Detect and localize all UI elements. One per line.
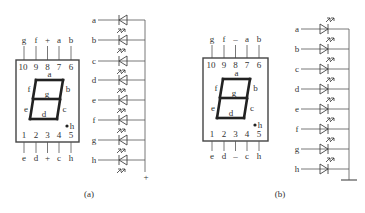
pin-label: g xyxy=(210,34,215,44)
led-row-h: h xyxy=(92,155,145,173)
panel-b-common-cathode: g f – a b 10 9 8 7 6 xyxy=(203,18,357,199)
pin-number: 9 xyxy=(222,60,227,70)
led-label: f xyxy=(93,115,96,125)
pin-label: d xyxy=(34,153,39,163)
led-label: e xyxy=(295,104,299,114)
light-emission-arrows-icon xyxy=(326,78,334,82)
pin-number: 6 xyxy=(69,62,74,72)
pin-number: 1 xyxy=(210,129,215,139)
segment-label-g: g xyxy=(45,89,50,99)
led-row-a: a xyxy=(92,15,145,33)
pin-number: 7 xyxy=(57,62,62,72)
segment-label-c: c xyxy=(250,103,254,113)
led-row-d: d xyxy=(295,78,349,94)
segment-b xyxy=(247,79,250,97)
pin-label: – xyxy=(232,34,238,44)
panel-a-caption: (a) xyxy=(84,189,94,199)
led-row-f: f xyxy=(296,118,350,134)
segment-label-g: g xyxy=(232,88,237,98)
panel-a-led-circuit: + a b c d xyxy=(92,15,149,182)
led-row-f: f xyxy=(93,115,146,133)
segment-e xyxy=(30,100,33,119)
light-emission-arrows-icon xyxy=(117,149,125,153)
panel-a-bottom-pin-numbers: 1 2 3 4 5 xyxy=(22,130,74,140)
panel-b-top-pin-labels: g f – a b xyxy=(210,34,262,44)
pin-label: e xyxy=(210,151,214,161)
led-label: h xyxy=(92,155,97,165)
led-row-e: e xyxy=(295,98,349,114)
light-emission-arrows-icon xyxy=(117,129,125,133)
pin-number: 10 xyxy=(207,60,217,70)
segment-label-e: e xyxy=(211,103,215,113)
light-emission-arrows-icon xyxy=(326,58,334,62)
pin-label: h xyxy=(257,151,262,161)
seven-segment-diagram: g f + a b 10 9 8 7 6 xyxy=(0,0,365,213)
light-emission-arrows-icon xyxy=(326,18,334,22)
pin-number: 3 xyxy=(233,129,238,139)
pin-number: 6 xyxy=(257,60,262,70)
anode-plus-terminal: + xyxy=(143,172,148,182)
led-row-c: c xyxy=(295,58,349,74)
pin-label: h xyxy=(69,153,74,163)
panel-b-bottom-pin-labels: e d – c h xyxy=(210,151,262,161)
led-label: g xyxy=(295,144,300,154)
pin-label: c xyxy=(57,153,61,163)
segment-b xyxy=(60,80,63,98)
pin-number: 7 xyxy=(245,60,250,70)
segment-label-b: b xyxy=(253,83,258,93)
pin-label: d xyxy=(222,151,227,161)
panel-a-common-anode: g f + a b 10 9 8 7 6 xyxy=(16,15,149,199)
led-label: d xyxy=(295,84,300,94)
decimal-point-dot xyxy=(253,123,256,126)
led-label: a xyxy=(92,15,96,25)
led-row-d: d xyxy=(92,75,145,93)
pin-label: f xyxy=(35,35,38,45)
pin-number: 1 xyxy=(22,130,27,140)
segment-label-d: d xyxy=(42,109,47,119)
light-emission-arrows-icon xyxy=(117,29,125,33)
panel-a-seven-segment-display: a b c d e f g h xyxy=(24,69,75,131)
panel-b-bottom-pin-leads xyxy=(212,141,259,151)
decimal-point-dot xyxy=(65,124,68,127)
led-label: e xyxy=(92,95,96,105)
pin-label: f xyxy=(223,34,226,44)
segment-e xyxy=(217,99,220,118)
light-emission-arrows-icon xyxy=(117,169,125,173)
segment-label-a: a xyxy=(48,69,52,79)
panel-a-top-pin-labels: g f + a b xyxy=(22,35,74,45)
pin-label: g xyxy=(22,35,27,45)
led-row-b: b xyxy=(92,35,145,53)
pin-number: 2 xyxy=(34,130,39,140)
led-row-b: b xyxy=(295,38,349,54)
light-emission-arrows-icon xyxy=(326,158,334,162)
panel-b-bottom-pin-numbers: 1 2 3 4 5 xyxy=(210,129,262,139)
led-label: h xyxy=(295,164,300,174)
segment-f xyxy=(33,80,36,98)
light-emission-arrows-icon xyxy=(326,98,334,102)
led-row-h: h xyxy=(295,158,349,174)
panel-b-seven-segment-display: a b c d e f g h xyxy=(211,68,263,130)
pin-number: 5 xyxy=(257,129,262,139)
segment-label-e: e xyxy=(24,104,28,114)
pin-label: + xyxy=(45,153,50,163)
light-emission-arrows-icon xyxy=(117,70,125,74)
pin-label: a xyxy=(57,35,61,45)
panel-b-caption: (b) xyxy=(275,189,286,199)
led-label: c xyxy=(295,64,299,74)
segment-f xyxy=(220,79,223,97)
pin-label: e xyxy=(22,153,26,163)
led-row-a: a xyxy=(295,18,349,34)
led-label: g xyxy=(92,135,97,145)
panel-b-top-pin-leads xyxy=(212,45,259,58)
pin-label: + xyxy=(45,35,50,45)
pin-number: 3 xyxy=(45,130,50,140)
segment-c xyxy=(244,99,247,118)
pin-number: 10 xyxy=(19,62,29,72)
pin-label: – xyxy=(232,151,238,161)
pin-number: 5 xyxy=(69,130,74,140)
led-row-g: g xyxy=(295,138,349,154)
led-label: f xyxy=(296,124,299,134)
pin-label: a xyxy=(245,34,249,44)
light-emission-arrows-icon xyxy=(326,118,334,122)
panel-a-bottom-pin-labels: e d + c h xyxy=(22,153,74,163)
